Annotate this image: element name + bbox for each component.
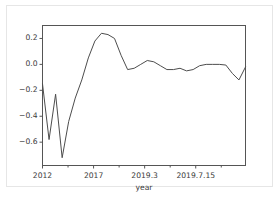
data-series-line xyxy=(43,33,246,157)
axes-spines xyxy=(43,26,246,166)
y-tick-label: 0.0 xyxy=(25,59,37,68)
y-tick-label: 0.2 xyxy=(25,33,37,42)
y-tick-label: −0.4 xyxy=(19,111,37,120)
figure-frame: 0.20.0−0.2−0.4−0.6 201220172019.32019.7.… xyxy=(0,0,279,198)
x-tick-label: 2019.7.15 xyxy=(156,171,236,180)
x-axis-title: year xyxy=(3,183,280,192)
y-tick-label: −0.2 xyxy=(19,85,37,94)
y-tick-label: −0.6 xyxy=(19,137,37,146)
line-chart xyxy=(0,0,279,198)
